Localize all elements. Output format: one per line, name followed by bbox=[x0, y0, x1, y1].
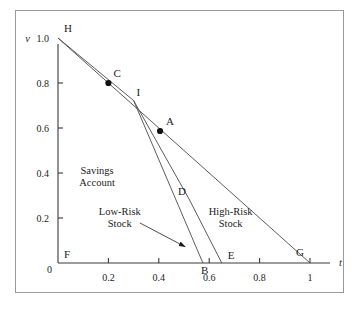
y-tick-label: 0.8 bbox=[37, 78, 50, 89]
axes-group bbox=[58, 44, 330, 263]
x-tick-label: 0.4 bbox=[153, 272, 166, 283]
chart-canvas: 0.20.40.60.81 0.20.40.60.81.00 HCIADFBEG… bbox=[0, 0, 361, 313]
y-ticks-group: 0.20.40.60.81.00 bbox=[37, 33, 64, 276]
point-label-d: D bbox=[178, 185, 186, 197]
series-line bbox=[134, 101, 222, 263]
origin-label: 0 bbox=[47, 264, 52, 275]
y-tick-label: 0.6 bbox=[37, 123, 50, 134]
annotation-high-risk-stock: High-RiskStock bbox=[209, 206, 254, 229]
point-label-c: C bbox=[113, 67, 120, 79]
y-tick-label: 0.2 bbox=[37, 213, 50, 224]
point-label-g: G bbox=[296, 246, 304, 258]
annotation-low-risk-stock: Low-RiskStock bbox=[99, 206, 142, 229]
figure-container: 0.20.40.60.81 0.20.40.60.81.00 HCIADFBEG… bbox=[0, 0, 361, 313]
series-group bbox=[58, 38, 310, 263]
y-axis-name: v bbox=[25, 33, 30, 44]
x-axis-name: t bbox=[339, 257, 343, 268]
point-label-i: I bbox=[137, 86, 141, 98]
x-tick-label: 1 bbox=[308, 272, 313, 283]
annotation-savings-account: SavingsAccount bbox=[79, 165, 115, 188]
x-tick-label: 0.2 bbox=[102, 272, 115, 283]
x-tick-label: 0.8 bbox=[253, 272, 266, 283]
point-labels-group: HCIADFBEG bbox=[64, 22, 304, 276]
series-line bbox=[58, 38, 310, 263]
series-line bbox=[58, 38, 134, 101]
annotation-leaders-group bbox=[140, 223, 185, 247]
point-label-b: B bbox=[201, 264, 208, 276]
y-tick-label: 1.0 bbox=[37, 33, 50, 44]
point-label-h: H bbox=[64, 22, 72, 34]
annotation-labels-group: SavingsAccountLow-RiskStockHigh-RiskStoc… bbox=[79, 165, 253, 229]
data-point-marker bbox=[157, 128, 163, 134]
point-label-e: E bbox=[228, 249, 235, 261]
data-point-marker bbox=[105, 80, 111, 86]
point-label-a: A bbox=[166, 115, 174, 127]
y-tick-label: 0.4 bbox=[37, 168, 50, 179]
point-label-f: F bbox=[64, 248, 70, 260]
annotation-leader-low-risk-stock bbox=[140, 223, 185, 247]
